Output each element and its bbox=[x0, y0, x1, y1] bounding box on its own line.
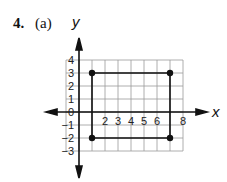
y-axis-label: y bbox=[72, 13, 80, 30]
svg-text:0: 0 bbox=[68, 106, 74, 118]
data-point bbox=[89, 70, 95, 76]
data-point bbox=[89, 135, 95, 141]
svg-text:4: 4 bbox=[128, 115, 134, 127]
svg-text:1: 1 bbox=[68, 93, 74, 105]
svg-text:3: 3 bbox=[68, 67, 74, 79]
coordinate-plane: 23456843210−1−2−3 bbox=[0, 0, 227, 182]
svg-text:4: 4 bbox=[68, 54, 74, 66]
svg-text:−3: −3 bbox=[61, 145, 74, 157]
tick-labels: 23456843210−1−2−3 bbox=[61, 54, 186, 157]
svg-text:2: 2 bbox=[102, 115, 108, 127]
svg-text:5: 5 bbox=[141, 115, 147, 127]
x-axis-label: x bbox=[212, 103, 220, 120]
svg-text:6: 6 bbox=[154, 115, 160, 127]
svg-text:−1: −1 bbox=[61, 119, 74, 131]
svg-text:3: 3 bbox=[115, 115, 121, 127]
svg-text:8: 8 bbox=[180, 115, 186, 127]
svg-text:−2: −2 bbox=[61, 132, 74, 144]
svg-text:2: 2 bbox=[68, 80, 74, 92]
data-point bbox=[167, 135, 173, 141]
data-point bbox=[167, 70, 173, 76]
